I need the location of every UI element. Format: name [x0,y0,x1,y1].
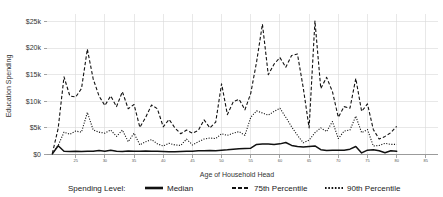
x-tick-label: 45 [190,158,195,163]
x-tick-label: 75 [365,158,370,163]
series-line-median [52,143,396,154]
chart-canvas: $0$5k$10k$15k$20k$25k 253035404550556065… [0,0,443,197]
x-tick-label: 65 [307,158,312,163]
education-spending-chart: $0$5k$10k$15k$20k$25k 253035404550556065… [0,0,443,197]
legend-label-75th-percentile: 75th Percentile [254,184,308,193]
legend: Spending Level: Median 75th Percentile 9… [68,184,401,193]
y-tick-label: $10k [26,98,42,105]
x-axis-title: Age of Household Head [200,171,274,179]
y-tick-label: $20k [26,44,42,51]
y-tick-label: $0 [33,151,41,158]
x-tick-label: 55 [249,158,254,163]
series-line-90th-percentile [52,108,396,153]
x-tick-labels: 25303540455055606570758085 [73,158,428,163]
y-tick-label: $15k [26,71,42,78]
y-tick-labels: $0$5k$10k$15k$20k$25k [26,18,42,158]
x-tick-label: 35 [132,158,137,163]
legend-label-median: Median [167,184,193,193]
x-tick-label: 85 [424,158,429,163]
x-tick-label: 25 [73,158,78,163]
x-tick-label: 30 [103,158,108,163]
y-tickmarks [44,21,47,154]
x-gridlines [76,14,426,155]
y-axis-title: Education Spending [5,55,13,118]
y-tick-label: $25k [26,18,42,25]
legend-label-90th-percentile: 90th Percentile [347,184,401,193]
x-tick-label: 40 [161,158,166,163]
x-tick-label: 80 [394,158,399,163]
x-tick-label: 50 [219,158,224,163]
x-tick-label: 70 [336,158,341,163]
y-tick-label: $5k [30,124,42,131]
x-tick-label: 60 [278,158,283,163]
data-series [52,21,396,154]
series-line-75th-percentile [52,21,396,153]
legend-title: Spending Level: [68,184,125,193]
